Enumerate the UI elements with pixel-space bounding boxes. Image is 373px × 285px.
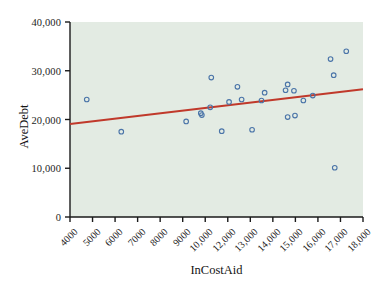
y-axis-title: AveDebt — [17, 82, 32, 172]
data-point — [235, 85, 240, 90]
data-point — [184, 119, 189, 124]
y-axis-tick-label: 40,000 — [0, 17, 61, 28]
data-point — [332, 165, 337, 170]
data-point — [344, 49, 349, 54]
data-point — [331, 73, 336, 78]
data-point — [285, 115, 290, 120]
data-point — [292, 88, 297, 93]
data-point — [219, 129, 224, 134]
y-axis-tick-label: 0 — [0, 212, 61, 223]
data-point — [285, 82, 290, 87]
data-point — [301, 98, 306, 103]
data-point — [250, 127, 255, 132]
data-point — [283, 88, 288, 93]
x-axis-ticks — [70, 217, 363, 222]
data-point — [209, 75, 214, 80]
data-points-group — [84, 49, 348, 170]
trendline — [70, 89, 363, 124]
y-axis-tick-label: 30,000 — [0, 65, 61, 76]
data-point — [119, 129, 124, 134]
data-point — [293, 113, 298, 118]
data-point — [262, 90, 267, 95]
data-point — [84, 97, 89, 102]
data-point — [227, 100, 232, 105]
regression-trendline — [70, 89, 363, 124]
data-point — [328, 57, 333, 62]
y-axis-ticks — [65, 22, 70, 217]
data-point — [239, 97, 244, 102]
x-axis-title: InCostAid — [70, 263, 363, 278]
